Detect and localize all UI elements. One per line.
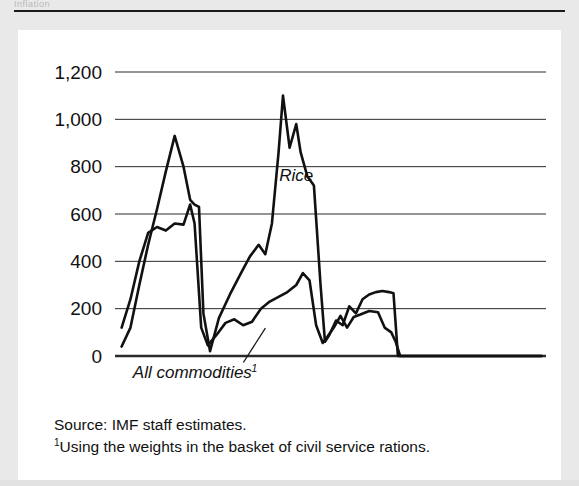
footnote-note: 1Using the weights in the basket of civi… [54,436,534,458]
y-axis-tick-label: 400 [70,251,102,272]
figure-notes: Source: IMF staff estimates. 1Using the … [54,414,534,458]
source-note: Source: IMF staff estimates. [54,414,534,436]
series-line [122,205,542,356]
annotation-leader-line [243,328,265,362]
y-axis-tick-label: 1,000 [54,109,102,130]
data-series-group [122,96,542,356]
title-divider-rule [14,10,565,12]
series-annotation-label: Rice [279,166,313,185]
annotation-superscript: 1 [251,362,257,374]
chart-canvas: 1,2001,0008006004002000−200 197619781980… [18,30,561,390]
y-axis-tick-label: 0 [91,346,102,367]
series-line [122,96,542,356]
scan-bottom-edge [0,480,579,486]
line-chart: 1,2001,0008006004002000−200 197619781980… [18,30,561,390]
clipped-title-text: Inflation [0,0,579,9]
y-axis-tick-labels: 1,2001,0008006004002000−200 [54,62,102,391]
gridlines-group [115,72,546,356]
y-axis-tick-label: 1,200 [54,62,102,83]
y-axis-tick-label: 200 [70,298,102,319]
series-annotation-label: All commodities [132,363,253,382]
figure-card: 1,2001,0008006004002000−200 197619781980… [18,30,561,480]
footnote-text: Using the weights in the basket of civil… [60,438,430,455]
scanned-figure: Inflation 1,2001,0008006004002000−200 19… [0,0,579,486]
y-axis-tick-label: 600 [70,204,102,225]
y-axis-tick-label: 800 [70,156,102,177]
